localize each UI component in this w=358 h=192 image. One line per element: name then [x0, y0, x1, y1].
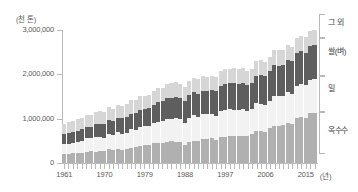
bar-segment	[183, 101, 187, 123]
bar-segment	[241, 68, 245, 83]
bar-segment	[129, 114, 133, 130]
bar-column	[183, 30, 187, 163]
bar-segment	[281, 96, 285, 125]
bar-segment	[299, 84, 303, 116]
bar-segment	[89, 127, 93, 139]
bar-segment	[165, 142, 169, 163]
bar-segment	[228, 136, 232, 163]
bar-segment	[102, 124, 106, 138]
legend-bracket	[319, 112, 325, 154]
bar-segment	[201, 139, 205, 163]
bar-column	[272, 30, 276, 163]
bar-segment	[196, 141, 200, 163]
bar-segment	[245, 71, 249, 85]
bar-segment	[116, 105, 120, 118]
bar-segment	[192, 115, 196, 141]
bar-segment	[178, 98, 182, 119]
bar-segment	[152, 105, 156, 123]
x-axis-tick-label: 1997	[217, 170, 233, 179]
bar-column	[156, 30, 160, 163]
bar-segment	[89, 151, 93, 163]
bar-segment	[259, 104, 263, 132]
bar-column	[76, 30, 80, 163]
x-axis-tick-label: 1988	[177, 170, 193, 179]
bar-segment	[111, 109, 115, 121]
bar-segment	[85, 115, 89, 127]
bar-segment	[156, 102, 160, 122]
bar-segment	[290, 124, 294, 163]
bar-segment	[272, 50, 276, 65]
bar-segment	[290, 94, 294, 124]
bar-column	[205, 30, 209, 163]
y-axis-tick-label: 1,000,000	[2, 114, 54, 123]
bar-segment	[174, 97, 178, 118]
bar-column	[71, 30, 75, 163]
bar-segment	[237, 110, 241, 136]
y-axis-tick-label: 2,000,000	[2, 69, 54, 78]
bar-segment	[67, 154, 71, 163]
bar-segment	[210, 138, 214, 163]
bar-segment	[147, 145, 151, 163]
bar-segment	[187, 81, 191, 95]
bar-segment	[299, 51, 303, 84]
bar-segment	[169, 83, 173, 98]
bar-segment	[259, 60, 263, 75]
bar-segment	[80, 118, 84, 130]
bar-segment	[76, 119, 80, 130]
bar-segment	[76, 131, 80, 142]
bar-column	[129, 30, 133, 163]
bar-segment	[228, 69, 232, 83]
bar-segment	[183, 87, 187, 101]
bar-column	[250, 30, 254, 163]
bar-segment	[245, 85, 249, 110]
bar-segment	[138, 146, 142, 163]
bar-segment	[94, 137, 98, 152]
bar-segment	[187, 118, 191, 142]
bar-segment	[62, 154, 66, 163]
bar-segment	[299, 36, 303, 52]
grain-production-chart: (천 톤) 01,000,0002,000,0003,000,000 19611…	[0, 0, 358, 192]
bar-segment	[250, 109, 254, 134]
bar-segment	[76, 142, 80, 153]
bar-segment	[214, 116, 218, 140]
bar-segment	[250, 134, 254, 163]
bar-segment	[107, 107, 111, 120]
bar-segment	[205, 114, 209, 139]
bar-column	[178, 30, 182, 163]
bar-segment	[223, 84, 227, 109]
bar-segment	[196, 79, 200, 93]
bar-segment	[277, 66, 281, 96]
bar-segment	[169, 98, 173, 119]
bar-segment	[134, 130, 138, 147]
bar-segment	[67, 133, 71, 143]
bar-segment	[277, 50, 281, 65]
bar-segment	[232, 110, 236, 136]
bar-column	[245, 30, 249, 163]
bar-segment	[134, 147, 138, 163]
bar-segment	[268, 57, 272, 72]
bar-segment	[214, 77, 218, 91]
bar-segment	[116, 118, 120, 133]
bar-segment	[201, 76, 205, 91]
bar-segment	[111, 121, 115, 135]
bar-segment	[295, 86, 299, 118]
bar-segment	[290, 47, 294, 62]
bar-segment	[259, 75, 263, 103]
bar-segment	[187, 95, 191, 118]
bar-segment	[219, 137, 223, 163]
bar-column	[89, 30, 93, 163]
bar-segment	[304, 37, 308, 52]
bar-segment	[295, 118, 299, 163]
bar-segment	[147, 108, 151, 126]
bar-segment	[76, 153, 80, 163]
bar-column	[152, 30, 156, 163]
bar-segment	[125, 149, 129, 163]
bar-segment	[125, 133, 129, 149]
bar-segment	[161, 101, 165, 121]
bar-column	[237, 30, 241, 163]
bar-segment	[178, 142, 182, 163]
bar-segment	[241, 83, 245, 110]
bar-column	[85, 30, 89, 163]
bar-segment	[67, 122, 71, 133]
x-axis-tick-label: 1979	[137, 170, 153, 179]
